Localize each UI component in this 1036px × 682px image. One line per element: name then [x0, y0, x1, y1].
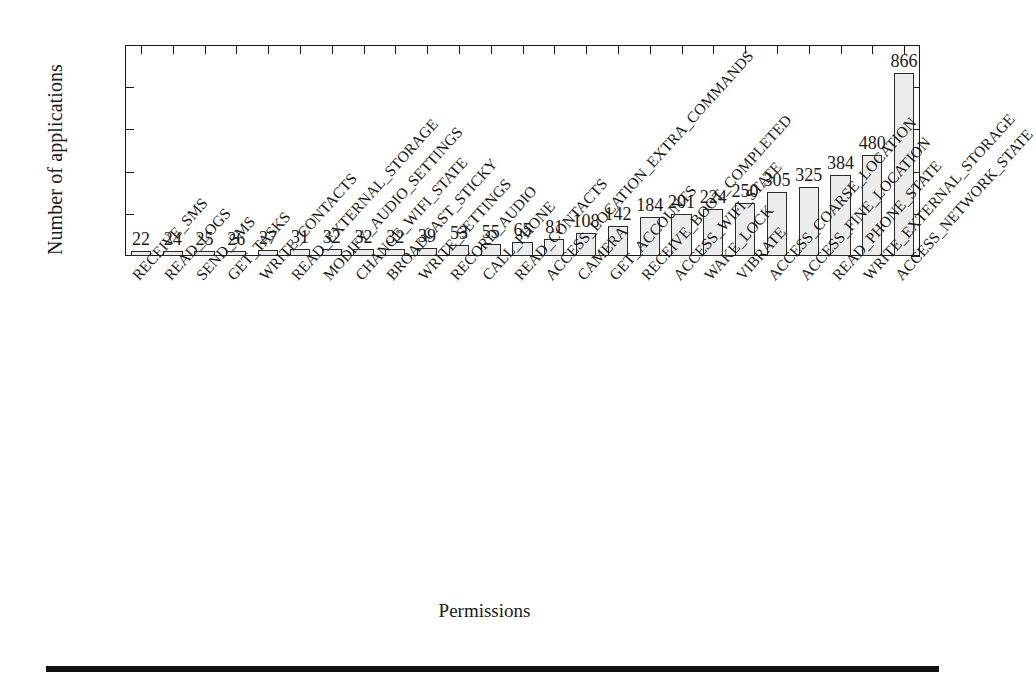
- footer-rule: [46, 666, 939, 672]
- x-axis-title: Permissions: [0, 600, 969, 622]
- bar-value-label: 866: [874, 52, 934, 70]
- y-axis-tick-labels: 02004006008001000: [0, 0, 125, 682]
